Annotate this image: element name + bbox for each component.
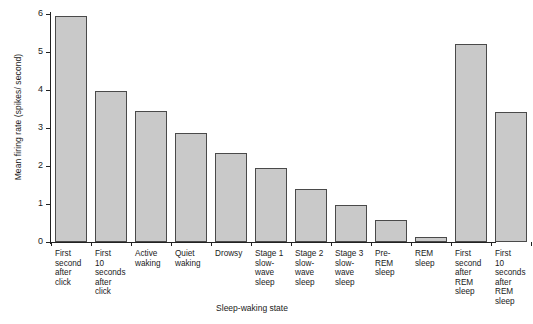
y-tick-mark — [46, 52, 50, 53]
x-category-label-line: Stage 3 — [335, 249, 373, 259]
x-category-label: First10secondsafterREMsleep — [493, 249, 533, 307]
bar — [415, 237, 447, 242]
x-category-label-line: slow- — [335, 259, 373, 269]
x-axis-title: Sleep-waking state — [0, 303, 504, 313]
x-category-label-line: wave — [335, 268, 373, 278]
bar — [175, 133, 207, 242]
bar — [335, 205, 367, 242]
x-category-label-line: second — [455, 259, 493, 269]
bar — [215, 153, 247, 242]
x-category-label-line: First — [95, 249, 133, 259]
x-tick-mark — [411, 242, 412, 246]
x-category-label-line: sleep — [295, 278, 333, 288]
x-category-label-line: Stage 2 — [295, 249, 333, 259]
y-tick-mark — [46, 128, 50, 129]
x-tick-mark — [131, 242, 132, 246]
x-category-label-line: slow- — [255, 259, 293, 269]
y-tick-mark — [46, 166, 50, 167]
x-category-label-line: REM — [495, 287, 533, 297]
y-axis-title: Mean firing rate (spikes/ second) — [13, 7, 23, 227]
x-category-label-line: First — [455, 249, 493, 259]
x-category-label-line: wave — [295, 268, 333, 278]
y-tick-label: 2 — [23, 160, 43, 171]
x-category-label: Pre-REMsleep — [373, 249, 413, 278]
bar — [95, 91, 127, 242]
x-category-label-line: wave — [255, 268, 293, 278]
x-category-label-line: waking — [175, 259, 213, 269]
x-category-label: Stage 3slow-wavesleep — [333, 249, 373, 287]
x-category-label: FirstsecondafterREMsleep — [453, 249, 493, 297]
x-tick-mark — [491, 242, 492, 246]
x-category-label-line: click — [95, 287, 133, 297]
bar — [55, 16, 87, 242]
x-tick-mark — [171, 242, 172, 246]
x-category-label-line: First — [55, 249, 93, 259]
x-category-label-line: Drowsy — [215, 249, 253, 259]
x-category-label: Activewaking — [133, 249, 173, 268]
bar — [455, 44, 487, 242]
y-tick-mark — [46, 242, 50, 243]
x-tick-mark — [531, 242, 532, 246]
x-category-label-line: Pre- — [375, 249, 413, 259]
bar — [375, 220, 407, 242]
y-tick-label: 0 — [23, 236, 43, 247]
x-category-label-line: 10 — [495, 259, 533, 269]
x-category-label: Stage 2slow-wavesleep — [293, 249, 333, 287]
x-category-label-line: Active — [135, 249, 173, 259]
x-category-label-line: slow- — [295, 259, 333, 269]
y-tick-label: 3 — [23, 122, 43, 133]
x-category-label-line: sleep — [415, 259, 453, 269]
bar — [255, 168, 287, 242]
x-category-label-line: sleep — [255, 278, 293, 288]
x-category-label-line: after — [495, 278, 533, 288]
x-tick-mark — [211, 242, 212, 246]
y-tick-label: 6 — [23, 8, 43, 19]
y-tick-label: 4 — [23, 84, 43, 95]
x-category-label: REMsleep — [413, 249, 453, 268]
y-tick-mark — [46, 204, 50, 205]
x-category-label-line: after — [95, 278, 133, 288]
x-category-label: Firstsecondafterclick — [53, 249, 93, 287]
x-category-label-line: Stage 1 — [255, 249, 293, 259]
x-category-label: Quietwaking — [173, 249, 213, 268]
x-category-label-line: sleep — [375, 268, 413, 278]
x-category-label-line: click — [55, 278, 93, 288]
y-tick-label: 1 — [23, 198, 43, 209]
y-axis-line — [50, 12, 51, 244]
x-axis-line — [50, 242, 496, 243]
y-tick-mark — [46, 14, 50, 15]
y-tick-label: 5 — [23, 46, 43, 57]
x-category-label: First10secondsafterclick — [93, 249, 133, 297]
x-tick-mark — [291, 242, 292, 246]
x-category-label-line: sleep — [455, 287, 493, 297]
x-category-label-line: after — [455, 268, 493, 278]
x-category-label-line: REM — [415, 249, 453, 259]
x-tick-mark — [451, 242, 452, 246]
bar — [135, 111, 167, 242]
x-category-label: Stage 1slow-wavesleep — [253, 249, 293, 287]
bar — [495, 112, 527, 242]
x-tick-mark — [371, 242, 372, 246]
x-category-label-line: seconds — [495, 268, 533, 278]
x-category-label-line: Quiet — [175, 249, 213, 259]
x-tick-mark — [331, 242, 332, 246]
x-category-label-line: 10 — [95, 259, 133, 269]
x-tick-mark — [251, 242, 252, 246]
x-category-label-line: after — [55, 268, 93, 278]
bar — [295, 189, 327, 242]
x-category-label-line: REM — [455, 278, 493, 288]
x-category-label-line: waking — [135, 259, 173, 269]
x-category-label: Drowsy — [213, 249, 253, 259]
x-category-label-line: First — [495, 249, 533, 259]
y-tick-mark — [46, 90, 50, 91]
x-category-label-line: sleep — [335, 278, 373, 288]
x-category-label-line: second — [55, 259, 93, 269]
x-tick-mark — [91, 242, 92, 246]
x-category-label-line: seconds — [95, 268, 133, 278]
x-category-label-line: REM — [375, 259, 413, 269]
x-tick-mark — [51, 242, 52, 246]
